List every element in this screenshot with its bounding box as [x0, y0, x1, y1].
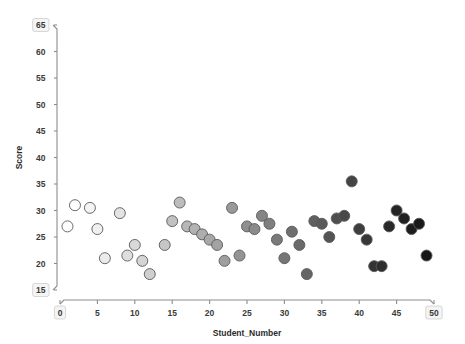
x-tick-label: 40: [354, 308, 364, 318]
y-tick-label: 20: [36, 259, 46, 269]
data-point: [159, 239, 170, 250]
chart-canvas: 1520253035404550556065051015202530354045…: [0, 0, 465, 344]
y-tick-label: 25: [36, 232, 46, 242]
x-tick-label: 30: [280, 308, 290, 318]
data-point: [92, 224, 103, 235]
data-point: [129, 239, 140, 250]
data-point: [62, 221, 73, 232]
data-point: [167, 216, 178, 227]
data-point: [279, 253, 290, 264]
y-tick-label: 60: [36, 47, 46, 57]
data-point: [384, 221, 395, 232]
data-point: [122, 250, 133, 261]
x-tick-label: 0: [58, 308, 63, 318]
data-point: [316, 218, 327, 229]
data-point: [84, 202, 95, 213]
y-axis-title: Score: [14, 145, 24, 169]
data-point: [361, 234, 372, 245]
x-tick-label: 20: [205, 308, 215, 318]
data-point: [144, 269, 155, 280]
data-point: [294, 239, 305, 250]
data-point: [346, 176, 357, 187]
x-tick-label: 35: [317, 308, 327, 318]
data-point: [212, 239, 223, 250]
data-point: [421, 250, 432, 261]
x-tick-label: 15: [167, 308, 177, 318]
y-tick-label: 35: [36, 179, 46, 189]
x-tick-label: 10: [130, 308, 140, 318]
data-point: [137, 255, 148, 266]
y-tick-label: 15: [36, 285, 46, 295]
x-tick-label: 45: [392, 308, 402, 318]
x-axis-title: Student_Number: [213, 328, 282, 338]
data-point: [219, 255, 230, 266]
y-tick-label: 65: [36, 20, 46, 30]
data-point: [174, 197, 185, 208]
data-point: [99, 253, 110, 264]
y-tick-label: 30: [36, 206, 46, 216]
x-tick-label: 25: [242, 308, 252, 318]
data-point: [414, 218, 425, 229]
data-point: [227, 202, 238, 213]
y-tick-label: 45: [36, 126, 46, 136]
y-tick-label: 40: [36, 153, 46, 163]
x-tick-label: 50: [429, 308, 439, 318]
y-tick-label: 55: [36, 73, 46, 83]
data-point: [234, 250, 245, 261]
data-point: [339, 210, 350, 221]
data-point: [69, 200, 80, 211]
data-point: [399, 213, 410, 224]
data-point: [114, 208, 125, 219]
data-point: [271, 234, 282, 245]
data-point: [264, 218, 275, 229]
y-tick-label: 50: [36, 100, 46, 110]
scatter-plot-figure: 1520253035404550556065051015202530354045…: [0, 0, 465, 344]
data-point: [376, 261, 387, 272]
data-point: [354, 224, 365, 235]
data-point: [249, 224, 260, 235]
data-point: [286, 226, 297, 237]
data-points-group: [62, 176, 432, 280]
data-point: [324, 232, 335, 243]
data-point: [301, 269, 312, 280]
x-tick-label: 5: [95, 308, 100, 318]
